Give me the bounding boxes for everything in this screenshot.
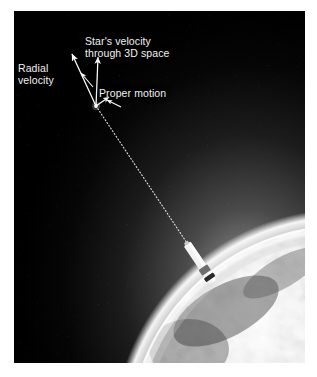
- illustration-plate: Star's velocity through 3D space Radial …: [14, 11, 305, 363]
- figure-root: Star's velocity through 3D space Radial …: [0, 0, 317, 377]
- scene-graphic: [14, 11, 305, 363]
